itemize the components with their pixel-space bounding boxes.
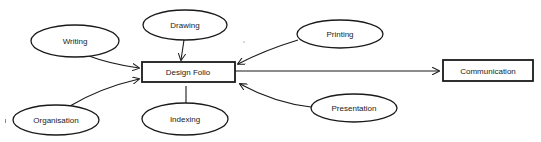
node-label: Communication: [460, 67, 516, 76]
node-writing: Writing: [31, 25, 119, 57]
node-label: Organisation: [33, 116, 78, 125]
concept-diagram: Writing Drawing Printing Organisation In…: [0, 0, 541, 142]
node-label: Writing: [63, 37, 88, 46]
node-drawing: Drawing: [143, 10, 227, 40]
edge-drawing-to-design-folio: [181, 40, 184, 60]
edges: [70, 40, 439, 107]
node-organisation: Organisation: [13, 105, 99, 135]
node-label: Printing: [326, 30, 353, 39]
edge-presentation-to-design-folio: [240, 84, 311, 107]
edge-writing-to-design-folio: [86, 55, 139, 68]
node-printing: Printing: [297, 20, 383, 48]
node-design-folio: Design Folio: [142, 62, 235, 82]
node-presentation: Presentation: [311, 94, 397, 122]
node-label: Presentation: [332, 104, 377, 113]
node-label: Drawing: [170, 21, 199, 30]
scan-speck: [243, 41, 244, 42]
node-communication: Communication: [443, 60, 533, 81]
edge-printing-to-design-folio: [238, 40, 298, 64]
node-indexing: Indexing: [142, 103, 228, 135]
scan-mark: [5, 119, 6, 123]
edge-organisation-to-design-folio: [70, 79, 139, 106]
node-label: Indexing: [170, 115, 200, 124]
node-label: Design Folio: [166, 68, 211, 77]
